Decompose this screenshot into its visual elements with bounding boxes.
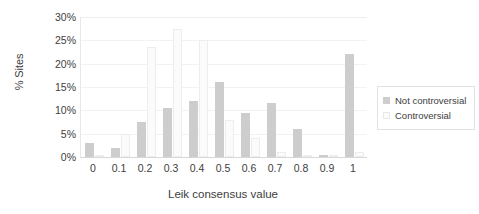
- bar[interactable]: [251, 138, 260, 157]
- bars-layer: [81, 17, 367, 157]
- y-axis-tick-labels: 0%5%10%15%20%25%30%: [40, 0, 76, 214]
- bar-group: [341, 17, 367, 157]
- bar-group: [237, 17, 263, 157]
- bar[interactable]: [215, 82, 224, 157]
- bar-group: [211, 17, 237, 157]
- legend-swatch-icon: [383, 112, 390, 119]
- bar[interactable]: [241, 113, 250, 157]
- x-axis-tick-labels: 00.10.20.30.40.50.60.70.80.91: [80, 162, 366, 174]
- x-axis-tick-label: 0.9: [314, 162, 340, 174]
- bar[interactable]: [199, 40, 208, 157]
- x-axis-tick-label: 0.5: [210, 162, 236, 174]
- bar[interactable]: [267, 103, 276, 157]
- bar[interactable]: [355, 152, 364, 157]
- bar-group: [315, 17, 341, 157]
- bar[interactable]: [173, 29, 182, 157]
- bar[interactable]: [163, 108, 172, 157]
- bar-chart: % Sites 0%5%10%15%20%25%30% 00.10.20.30.…: [0, 0, 479, 214]
- bar-group: [263, 17, 289, 157]
- x-axis-tick-label: 0.6: [236, 162, 262, 174]
- bar[interactable]: [147, 47, 156, 157]
- y-axis-tick-label: 15%: [40, 82, 76, 93]
- legend-item-label: Not controversial: [395, 96, 466, 106]
- x-axis-tick-label: 0.4: [184, 162, 210, 174]
- y-axis-tick-label: 20%: [40, 58, 76, 69]
- bar[interactable]: [121, 134, 130, 157]
- bar[interactable]: [85, 143, 94, 157]
- bar-group: [81, 17, 107, 157]
- x-axis-title: Leik consensus value: [80, 188, 366, 200]
- bar-group: [159, 17, 185, 157]
- bar-group: [185, 17, 211, 157]
- y-axis-tick-label: 5%: [40, 128, 76, 139]
- bar[interactable]: [189, 101, 198, 157]
- bar[interactable]: [319, 155, 328, 157]
- chart-legend: Not controversialControversial: [377, 86, 475, 130]
- bar[interactable]: [137, 122, 146, 157]
- x-axis-tick-label: 0.8: [288, 162, 314, 174]
- bar-group: [133, 17, 159, 157]
- x-axis-tick-label: 0: [80, 162, 106, 174]
- bar[interactable]: [303, 155, 312, 157]
- plot-area: [80, 17, 367, 158]
- bar[interactable]: [111, 148, 120, 157]
- x-axis-tick-label: 0.2: [132, 162, 158, 174]
- bar[interactable]: [329, 155, 338, 157]
- x-axis-tick-label: 0.7: [262, 162, 288, 174]
- bar[interactable]: [277, 152, 286, 157]
- legend-item[interactable]: Not controversial: [383, 93, 470, 108]
- y-axis-tick-label: 0%: [40, 152, 76, 163]
- bar[interactable]: [293, 129, 302, 157]
- y-axis-tick-label: 10%: [40, 105, 76, 116]
- x-axis-tick-label: 1: [340, 162, 366, 174]
- y-axis-title: % Sites: [13, 37, 25, 107]
- bar-group: [107, 17, 133, 157]
- bar-group: [289, 17, 315, 157]
- x-axis-tick-label: 0.1: [106, 162, 132, 174]
- bar[interactable]: [225, 120, 234, 157]
- bar[interactable]: [345, 54, 354, 157]
- legend-item-label: Controversial: [395, 111, 451, 121]
- x-axis-tick-label: 0.3: [158, 162, 184, 174]
- y-axis-tick-label: 25%: [40, 35, 76, 46]
- legend-swatch-icon: [383, 97, 390, 104]
- y-axis-tick-label: 30%: [40, 12, 76, 23]
- legend-item[interactable]: Controversial: [383, 108, 470, 123]
- bar[interactable]: [95, 155, 104, 157]
